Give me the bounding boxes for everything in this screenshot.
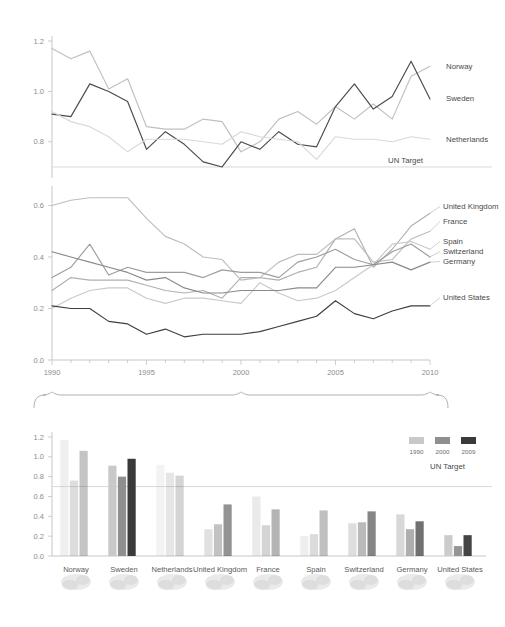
top-line-chart: 1.21.00.8UN TargetNorwaySwedenNetherland…	[34, 36, 492, 178]
middle-x-tick-label: 1995	[138, 368, 155, 377]
bar-spain-1990	[300, 536, 308, 556]
bar-germany-2009	[416, 521, 424, 556]
bar-switzerland-2009	[368, 511, 376, 556]
year-brace-connector	[34, 392, 448, 408]
map-icon-detail	[460, 575, 474, 585]
middle-y-tick-label: 0.0	[34, 356, 44, 365]
bar-netherlands-2009	[176, 476, 184, 556]
bottom-category-label-netherlands: Netherlands	[152, 565, 193, 574]
middle-leader-line	[430, 252, 440, 257]
map-icon-detail	[76, 575, 90, 585]
top-y-tick-label: 0.8	[34, 137, 44, 146]
legend-swatch-1990	[409, 437, 424, 444]
map-icon-detail	[364, 575, 378, 585]
bottom-category-label-united-states: United States	[437, 565, 483, 574]
bar-united-states-2000	[454, 546, 462, 556]
middle-leader-line	[430, 207, 440, 214]
bar-sweden-2009	[128, 459, 136, 556]
middle-leader-line	[430, 262, 440, 263]
middle-series-united-states	[52, 301, 430, 337]
top-un-target-label: UN Target	[388, 156, 424, 165]
middle-line-chart: 0.60.40.20.019901995200020052010United K…	[34, 186, 499, 377]
middle-label-france: France	[443, 217, 467, 226]
bar-france-2000	[262, 525, 270, 556]
legend-label-2000: 2000	[436, 448, 450, 455]
legend-label-1990: 1990	[410, 448, 424, 455]
map-icon-detail	[302, 580, 318, 590]
bar-switzerland-2000	[358, 522, 366, 556]
bottom-y-tick-label: 1.2	[34, 433, 44, 442]
bar-switzerland-1990	[348, 523, 356, 556]
middle-series-switzerland	[52, 244, 430, 277]
bar-united-states-2009	[464, 535, 472, 556]
legend-swatch-2000	[435, 437, 450, 444]
map-icon-detail	[316, 575, 330, 585]
map-icon-detail	[110, 580, 126, 590]
bar-united-states-1990	[444, 535, 452, 556]
bar-netherlands-1990	[156, 465, 164, 556]
bar-united-kingdom-2000	[214, 524, 222, 556]
top-label-netherlands: Netherlands	[446, 135, 488, 144]
middle-leader-line	[430, 222, 440, 232]
bottom-legend: 199020002009	[409, 437, 476, 455]
oda-chart-svg: 1.21.00.8UN TargetNorwaySwedenNetherland…	[0, 0, 505, 627]
map-icon-detail	[412, 575, 426, 585]
bar-germany-2000	[406, 529, 414, 556]
bottom-category-label-united-kingdom: United Kingdom	[193, 565, 247, 574]
middle-label-switzerland: Switzerland	[443, 247, 483, 256]
bar-netherlands-2000	[166, 473, 174, 556]
bottom-y-tick-label: 1.0	[34, 452, 44, 461]
middle-label-germany: Germany	[443, 257, 475, 266]
bar-united-kingdom-1990	[204, 529, 212, 556]
middle-y-tick-label: 0.4	[34, 253, 44, 262]
bottom-category-label-switzerland: Switzerland	[344, 565, 383, 574]
map-icon-detail	[206, 580, 222, 590]
map-icon-detail	[268, 575, 282, 585]
bar-france-1990	[252, 496, 260, 556]
top-y-tick-label: 1.2	[34, 37, 44, 46]
middle-y-tick-label: 0.6	[34, 201, 44, 210]
brace-path	[34, 392, 448, 408]
middle-x-tick-label: 2010	[422, 368, 439, 377]
bottom-category-label-spain: Spain	[306, 565, 325, 574]
middle-leader-line	[430, 242, 440, 250]
bar-germany-1990	[396, 514, 404, 556]
middle-x-tick-label: 2005	[327, 368, 344, 377]
bottom-un-target-label: UN Target	[430, 462, 466, 471]
bottom-y-tick-label: 0.2	[34, 532, 44, 541]
map-icon-detail	[62, 580, 78, 590]
bar-france-2009	[272, 509, 280, 556]
bottom-bar-chart: 1.21.00.80.60.40.20.0UN TargetNorwaySwed…	[34, 432, 492, 590]
figure-root: 1.21.00.8UN TargetNorwaySwedenNetherland…	[0, 0, 505, 627]
bar-united-kingdom-2009	[224, 504, 232, 556]
bottom-y-tick-label: 0.0	[34, 552, 44, 561]
top-y-tick-label: 1.0	[34, 87, 44, 96]
bar-norway-1990	[60, 440, 68, 556]
bar-norway-2009	[80, 451, 88, 556]
map-icon-detail	[350, 580, 366, 590]
middle-label-united-states: United States	[443, 293, 490, 302]
middle-x-tick-label: 1990	[44, 368, 61, 377]
middle-label-united-kingdom: United Kingdom	[443, 202, 498, 211]
map-icon-detail	[398, 580, 414, 590]
map-icon-detail	[254, 580, 270, 590]
map-icon-detail	[158, 580, 174, 590]
top-label-norway: Norway	[446, 62, 473, 71]
bar-sweden-1990	[108, 466, 116, 556]
map-icon-detail	[172, 575, 186, 585]
map-icon-detail	[220, 575, 234, 585]
legend-swatch-2009	[461, 437, 476, 444]
middle-x-tick-label: 2000	[233, 368, 250, 377]
bottom-y-tick-label: 0.6	[34, 492, 44, 501]
bottom-y-tick-label: 0.8	[34, 472, 44, 481]
bar-spain-2009	[320, 510, 328, 556]
middle-y-tick-label: 0.2	[34, 304, 44, 313]
bar-sweden-2000	[118, 477, 126, 556]
bottom-category-label-france: France	[256, 565, 280, 574]
bar-norway-2000	[70, 481, 78, 556]
bottom-category-label-norway: Norway	[63, 565, 89, 574]
map-icon-detail	[446, 580, 462, 590]
middle-leader-line	[430, 298, 440, 306]
bar-spain-2000	[310, 534, 318, 556]
bottom-category-label-sweden: Sweden	[110, 565, 137, 574]
